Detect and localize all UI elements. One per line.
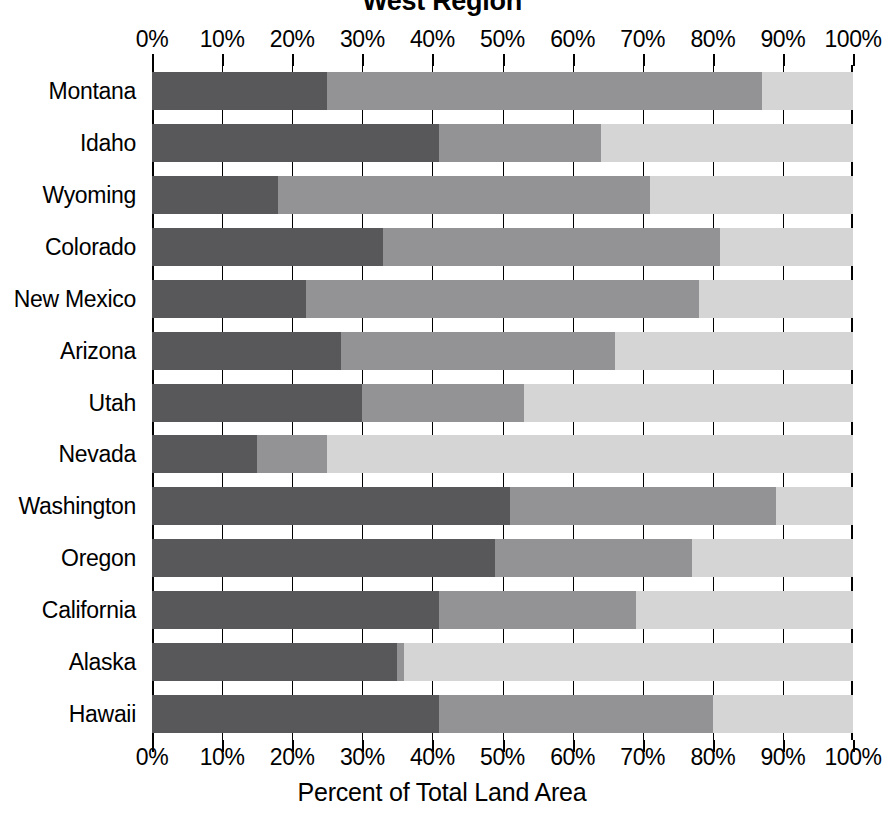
- axis-tick-mark: [432, 740, 434, 752]
- bar-segment[interactable]: [152, 332, 341, 370]
- bar-row[interactable]: [152, 72, 853, 110]
- x-tick-label-30pct: 30%: [340, 26, 385, 52]
- axis-tick-mark: [292, 740, 294, 752]
- bar-row[interactable]: [152, 643, 853, 681]
- bar-segment[interactable]: [152, 280, 306, 318]
- bar-segment[interactable]: [762, 72, 853, 110]
- bar-segment[interactable]: [327, 435, 853, 473]
- x-tick-label-40pct: 40%: [410, 26, 455, 52]
- bar-segment[interactable]: [152, 384, 362, 422]
- category-label-oregon: Oregon: [61, 545, 136, 571]
- bar-segment[interactable]: [152, 643, 397, 681]
- bar-row[interactable]: [152, 332, 853, 370]
- axis-tick-mark: [222, 54, 224, 66]
- axis-tick-mark: [713, 54, 715, 66]
- bar-segment[interactable]: [601, 124, 853, 162]
- bar-segment[interactable]: [397, 643, 404, 681]
- bar-row[interactable]: [152, 124, 853, 162]
- bar-segment[interactable]: [615, 332, 853, 370]
- bar-segment[interactable]: [692, 539, 853, 577]
- bar-segment[interactable]: [152, 695, 439, 733]
- bar-segment[interactable]: [524, 384, 853, 422]
- bar-segment[interactable]: [306, 280, 699, 318]
- axis-tick-mark: [503, 54, 505, 66]
- axis-tick-mark: [503, 740, 505, 752]
- bar-segment[interactable]: [152, 228, 383, 266]
- bars-container: [152, 65, 853, 740]
- bar-segment[interactable]: [152, 176, 278, 214]
- bar-segment[interactable]: [152, 124, 439, 162]
- x-axis-tick-labels-top: 0%10%20%30%40%50%60%70%80%90%100%: [0, 26, 884, 52]
- category-label-idaho: Idaho: [80, 130, 136, 156]
- axis-tick-mark: [783, 740, 785, 752]
- bar-segment[interactable]: [510, 487, 776, 525]
- category-label-new-mexico: New Mexico: [14, 286, 136, 312]
- axis-tick-mark: [292, 54, 294, 66]
- bar-row[interactable]: [152, 695, 853, 733]
- axis-tick-mark: [362, 54, 364, 66]
- axis-tick-mark: [853, 740, 855, 752]
- bar-row[interactable]: [152, 435, 853, 473]
- bar-segment[interactable]: [152, 591, 439, 629]
- bar-segment[interactable]: [257, 435, 327, 473]
- axis-tick-mark: [783, 54, 785, 66]
- bar-segment[interactable]: [152, 539, 495, 577]
- axis-tick-mark: [573, 54, 575, 66]
- x-tick-label-60pct: 60%: [550, 26, 595, 52]
- axis-tick-mark: [643, 740, 645, 752]
- category-label-utah: Utah: [89, 390, 136, 416]
- axis-tick-mark: [713, 740, 715, 752]
- axis-tick-mark: [573, 740, 575, 752]
- category-label-arizona: Arizona: [60, 338, 136, 364]
- bar-segment[interactable]: [650, 176, 853, 214]
- bar-segment[interactable]: [341, 332, 614, 370]
- bar-segment[interactable]: [713, 695, 853, 733]
- bar-segment[interactable]: [776, 487, 853, 525]
- axis-tick-mark: [152, 740, 154, 752]
- bar-row[interactable]: [152, 280, 853, 318]
- bar-segment[interactable]: [720, 228, 853, 266]
- bar-segment[interactable]: [439, 695, 712, 733]
- category-label-hawaii: Hawaii: [69, 701, 136, 727]
- bar-segment[interactable]: [439, 124, 600, 162]
- bar-segment[interactable]: [278, 176, 650, 214]
- axis-tick-mark: [432, 54, 434, 66]
- x-axis-title: Percent of Total Land Area: [0, 778, 884, 807]
- x-tick-label-70pct: 70%: [620, 26, 665, 52]
- x-tick-label-80pct: 80%: [690, 26, 735, 52]
- bar-segment[interactable]: [152, 435, 257, 473]
- bar-row[interactable]: [152, 539, 853, 577]
- category-label-colorado: Colorado: [45, 234, 136, 260]
- category-label-washington: Washington: [18, 493, 136, 519]
- chart-title: West Region: [0, 0, 884, 16]
- bar-segment[interactable]: [383, 228, 719, 266]
- category-label-california: California: [42, 597, 136, 623]
- bar-row[interactable]: [152, 228, 853, 266]
- y-axis-category-labels: MontanaIdahoWyomingColoradoNew MexicoAri…: [0, 65, 146, 740]
- axis-tick-mark: [222, 740, 224, 752]
- bar-segment[interactable]: [327, 72, 762, 110]
- bar-segment[interactable]: [404, 643, 853, 681]
- bar-segment[interactable]: [636, 591, 853, 629]
- axis-tick-mark: [152, 54, 154, 66]
- bar-segment[interactable]: [439, 591, 635, 629]
- x-tick-label-50pct: 50%: [480, 26, 525, 52]
- x-tick-label-20pct: 20%: [270, 26, 315, 52]
- x-tick-label-90pct: 90%: [760, 26, 805, 52]
- plot-area: [152, 65, 853, 740]
- bar-segment[interactable]: [362, 384, 523, 422]
- bar-row[interactable]: [152, 384, 853, 422]
- bar-row[interactable]: [152, 487, 853, 525]
- category-label-nevada: Nevada: [59, 441, 136, 467]
- x-tick-label-10pct: 10%: [200, 26, 245, 52]
- bar-segment[interactable]: [152, 72, 327, 110]
- category-label-montana: Montana: [49, 78, 136, 104]
- bar-segment[interactable]: [495, 539, 691, 577]
- bar-segment[interactable]: [152, 487, 510, 525]
- axis-tick-mark: [643, 54, 645, 66]
- axis-tick-mark: [853, 54, 855, 66]
- bar-row[interactable]: [152, 591, 853, 629]
- axis-tick-mark: [362, 740, 364, 752]
- bar-segment[interactable]: [699, 280, 853, 318]
- bar-row[interactable]: [152, 176, 853, 214]
